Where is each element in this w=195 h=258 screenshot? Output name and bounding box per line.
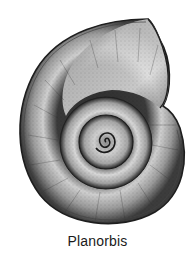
planorbis-shell-illustration bbox=[0, 0, 195, 232]
species-caption: Planorbis bbox=[0, 233, 195, 249]
shell-figure: Planorbis bbox=[0, 0, 195, 258]
stipple-texture bbox=[20, 19, 184, 224]
